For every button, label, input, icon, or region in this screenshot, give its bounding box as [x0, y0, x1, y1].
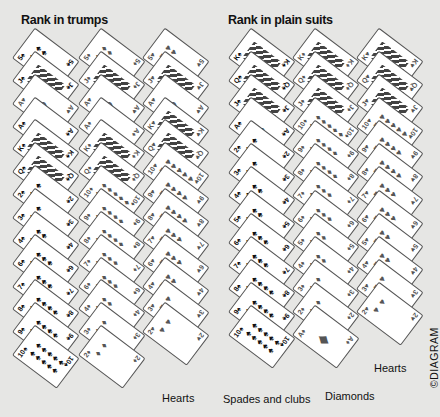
card-index: 6♥	[409, 219, 419, 230]
card-index: K♥	[194, 126, 205, 138]
copyright-diagram: ©DIAGRAM	[428, 327, 440, 388]
card-index: 9♦	[131, 218, 141, 228]
card-index: A♦	[296, 327, 307, 338]
card-index: 8♥	[146, 211, 156, 222]
card-index: A♥	[82, 96, 93, 108]
heart-icon: ♥	[371, 305, 381, 315]
spade-icon: ♠	[50, 366, 60, 375]
card-index: K♦	[131, 149, 142, 160]
card-index: 9♥	[195, 195, 205, 206]
card-index: J♥	[360, 97, 370, 108]
card-index: A♠	[281, 127, 292, 138]
card-index: 7♠	[65, 286, 75, 296]
card-index: 2♠	[65, 195, 75, 205]
card-index: J♦	[131, 81, 141, 91]
card-index: 9♥	[409, 150, 419, 161]
diamond-icon: ♦	[93, 349, 103, 358]
card-index: 5♦	[345, 242, 355, 252]
card-index: Q♥	[408, 81, 419, 93]
diamond-icon: ♦	[99, 341, 109, 350]
card-index: A♥	[16, 96, 27, 108]
card-index: 7♠	[281, 265, 291, 275]
card-index: 4♥	[195, 286, 205, 297]
heading-rank-in-plain-suits: Rank in plain suits	[228, 13, 333, 27]
card-index: 6♠	[232, 236, 242, 246]
card-index: 6♦	[82, 280, 92, 290]
label-plain-spades-clubs: Spades and clubs	[223, 393, 310, 405]
card-index: J♥	[195, 81, 205, 92]
card-index: 3♥	[195, 309, 205, 320]
card-index: 7♠	[16, 280, 26, 290]
card-index: 9♦	[296, 144, 306, 154]
card-index: J♥	[409, 104, 419, 115]
card-index: 7♦	[82, 257, 92, 267]
card-index: K♦	[296, 51, 307, 62]
card-index: 7♦	[296, 190, 306, 200]
card-index: K♥	[408, 58, 419, 70]
card-index: 9♠	[16, 326, 26, 336]
card-index: 7♦	[345, 196, 355, 206]
card-index: 4♠	[16, 234, 26, 244]
card-index: 6♥	[360, 213, 370, 224]
card-index: 4♥	[146, 280, 156, 291]
card-index: 2♦	[345, 312, 355, 322]
card-index: J♦	[296, 98, 306, 108]
card-index: 8♥	[360, 166, 370, 177]
card-index: 6♥	[195, 263, 205, 274]
card-index: 3♠	[16, 211, 26, 221]
card-index: 6♥	[146, 257, 156, 268]
card-index: K♠	[65, 149, 76, 160]
card-index: 2♠	[16, 188, 26, 198]
card-index: 5♦	[296, 236, 306, 246]
card-index: 4♥	[360, 259, 370, 270]
card-index: A♥	[194, 103, 205, 115]
card-index: 2♥	[146, 325, 156, 336]
card-index: 2♦	[131, 355, 141, 365]
card-index: Q♦	[130, 172, 141, 183]
card-index: 3♥	[360, 282, 370, 293]
card-index: 7♥	[146, 234, 156, 245]
card-index: Q♠	[64, 172, 75, 184]
card-index: 3♠	[65, 218, 75, 228]
diamond-icon: ♦	[312, 329, 334, 349]
card-index: 2♥	[409, 312, 419, 323]
heart-icon: ♥	[163, 318, 173, 328]
card-index: 8♥	[195, 218, 205, 229]
card-index: 7♥	[409, 196, 419, 207]
card-index: 6♠	[65, 263, 75, 273]
card-index: K♠	[281, 58, 292, 69]
card-index: 5♠	[281, 219, 291, 229]
card-index: 9♦	[345, 150, 355, 160]
card-index: 6♦	[131, 286, 141, 296]
heart-icon: ♥	[157, 326, 167, 336]
card-index: 6♠	[16, 257, 26, 267]
card-index: J♦	[82, 74, 92, 84]
card-index: J♠	[232, 97, 242, 107]
heading-rank-in-trumps: Rank in trumps	[21, 13, 108, 27]
label-plain-diamonds: Diamonds	[325, 390, 375, 402]
card-index: 4♠	[65, 241, 75, 251]
card-index: A♥	[130, 103, 141, 115]
card-index: 9♥	[146, 188, 156, 199]
card-index: K♠	[232, 50, 243, 61]
card-index: 5♥	[360, 236, 370, 247]
card-index: 8♦	[131, 241, 141, 251]
card-index: 9♠	[65, 332, 75, 342]
card-index: 2♦	[296, 305, 306, 315]
card-index: 3♦	[345, 288, 355, 298]
card-index: A♠	[16, 119, 27, 130]
card-index: 8♠	[232, 282, 242, 292]
card-index: 3♠	[281, 173, 291, 183]
card-index: J♠	[281, 104, 291, 114]
heart-icon: ♥	[377, 297, 387, 307]
card-index: 5♠	[232, 213, 242, 223]
label-plain-hearts: Hearts	[374, 362, 406, 374]
card-index: 4♦	[345, 265, 355, 275]
card-index: A♦	[131, 126, 142, 137]
card-index: 5♠	[65, 58, 75, 68]
card-index: 3♦	[296, 282, 306, 292]
card-index: A♠	[65, 126, 76, 137]
card-index: 6♦	[296, 213, 306, 223]
card-index: 8♠	[65, 309, 75, 319]
card-index: A♥	[64, 103, 75, 115]
